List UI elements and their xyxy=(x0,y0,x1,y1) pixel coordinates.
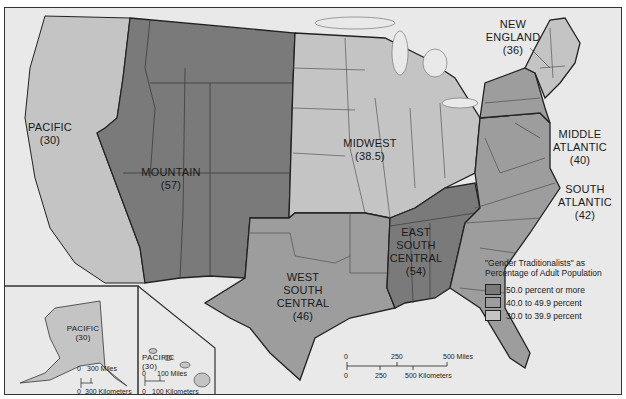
hawaii-scale-km-0: 0 xyxy=(142,388,146,395)
scale-km-250: 250 xyxy=(375,372,387,379)
scale-mi-500: 500 Miles xyxy=(443,353,473,360)
scale-mi-250: 250 xyxy=(391,353,403,360)
alaska-label-value: (30) xyxy=(63,333,103,342)
alaska-scale-mi-300: 300 Miles xyxy=(87,365,117,372)
map-frame: PACIFIC (30) MOUNTAIN (57) MIDWEST (38.5… xyxy=(4,7,622,395)
scale-km-0: 0 xyxy=(344,372,348,379)
label-hawaii-pacific: PACIFIC (30) xyxy=(142,353,174,371)
alaska-label-name: PACIFIC xyxy=(63,324,103,333)
hawaii-scale-mi-100: 100 Miles xyxy=(157,370,187,377)
label-alaska-pacific: PACIFIC (30) xyxy=(63,324,103,342)
alaska-scale-km-300: 300 Kilometers xyxy=(85,388,132,395)
hawaii-scale-mi-0: 0 xyxy=(142,370,146,377)
scale-km-500: 500 Kilometers xyxy=(405,372,452,379)
hawaii-scale-km-100: 100 Kilometers xyxy=(152,388,199,395)
hawaii-label-name: PACIFIC xyxy=(142,353,174,362)
scale-mi-0: 0 xyxy=(344,353,348,360)
alaska-scale-mi-0: 0 xyxy=(77,365,81,372)
alaska-scale-km-0: 0 xyxy=(77,388,81,395)
